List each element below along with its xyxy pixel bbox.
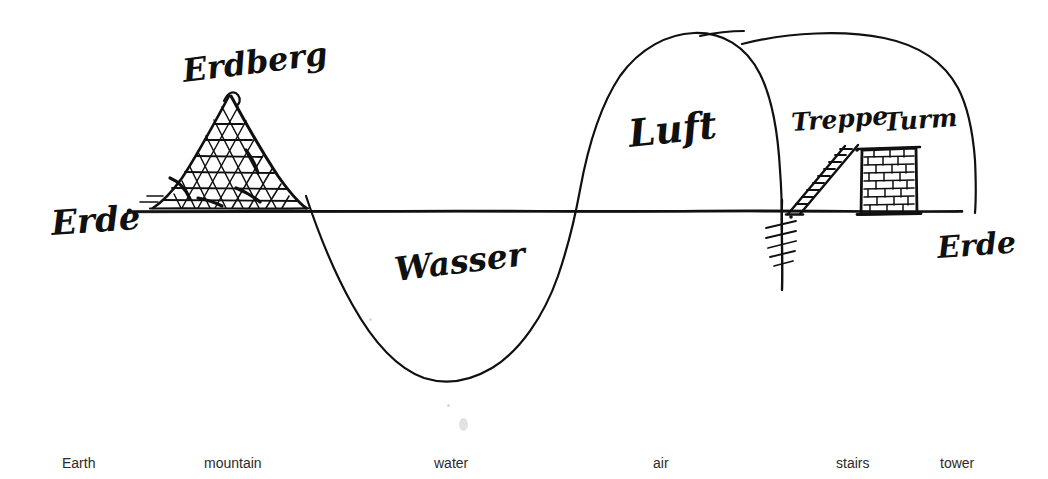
diagram-page: Erde Erdberg Wasser Luft Treppe Turm Erd… bbox=[0, 0, 1048, 479]
pillar-dot bbox=[789, 215, 793, 219]
label-turm: Turm bbox=[882, 103, 958, 137]
tower-base-line bbox=[857, 214, 921, 215]
caption-earth: Earth bbox=[62, 455, 95, 471]
label-luft: Luft bbox=[625, 102, 719, 156]
label-treppe: Treppe bbox=[790, 101, 889, 137]
label-erde-right: Erde bbox=[935, 225, 1017, 265]
wave-curve bbox=[306, 33, 782, 381]
tower-group bbox=[857, 147, 921, 215]
stairs-group bbox=[786, 145, 859, 215]
paper-speck bbox=[459, 418, 468, 431]
caption-tower: tower bbox=[940, 455, 974, 471]
caption-stairs: stairs bbox=[836, 455, 869, 471]
labels-group: Erde Erdberg Wasser Luft Treppe Turm Erd… bbox=[49, 34, 1017, 288]
paper-speck bbox=[447, 404, 450, 407]
label-erdberg: Erdberg bbox=[179, 34, 329, 90]
caption-water: water bbox=[434, 455, 468, 471]
stairs-steps bbox=[791, 149, 852, 211]
caption-air: air bbox=[653, 455, 669, 471]
paper-speck bbox=[369, 318, 372, 321]
hand-drawn-diagram: Erde Erdberg Wasser Luft Treppe Turm Erd… bbox=[0, 0, 1048, 479]
bottom-crop-band bbox=[0, 471, 1048, 479]
sine-wave-group bbox=[306, 31, 976, 381]
label-erde-left: Erde bbox=[49, 197, 142, 243]
mountain-ground-ticks bbox=[140, 196, 163, 202]
label-wasser: Wasser bbox=[392, 234, 529, 289]
caption-mountain: mountain bbox=[204, 455, 262, 471]
mountain-group bbox=[140, 92, 308, 208]
